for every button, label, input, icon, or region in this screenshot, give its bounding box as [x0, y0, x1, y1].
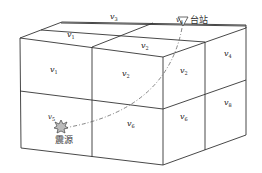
label-top-front-left: v1: [67, 31, 75, 40]
label-front-lower-left: v5: [48, 114, 55, 122]
label-side-upper-front: v2: [180, 67, 188, 76]
label-top-front-right: v2: [141, 42, 149, 51]
side-bottom-edge: [163, 135, 246, 165]
block-diagram: v3 v1 v2 v4 台站 v1 v2 v2 v4 v5 震源 v6 v6 v…: [0, 0, 262, 173]
source-burst-icon: [54, 120, 68, 133]
label-top-back-right: v3: [110, 13, 118, 22]
front-left-edge: [20, 38, 21, 148]
block-wireframe: [0, 0, 262, 173]
label-side-lower-front: v6: [180, 113, 188, 122]
side-mid-horizontal: [163, 80, 246, 109]
label-front-lower-right: v6: [127, 120, 135, 129]
label-side-upper-back: v4: [224, 50, 232, 59]
label-front-upper-left: v1: [50, 66, 58, 75]
top-face-outline: [20, 22, 246, 57]
label-front-upper-right: v2: [122, 70, 130, 79]
label-side-lower-back: v8: [224, 99, 232, 108]
top-face-mid-depth: [41, 30, 205, 42]
station-label: 台站: [190, 16, 208, 25]
front-mid-horizontal: [20, 91, 163, 109]
source-label: 震源: [55, 136, 73, 145]
label-station-cell: v4: [176, 17, 183, 25]
